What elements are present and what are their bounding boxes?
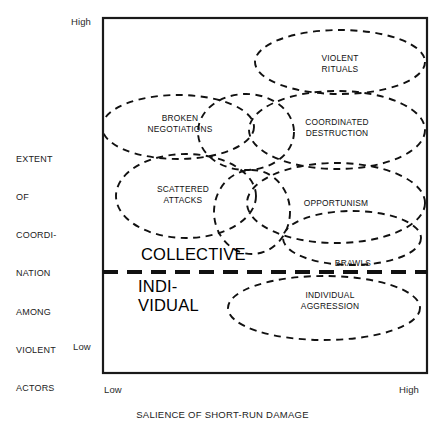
region-label-brawls: BRAWLS xyxy=(273,258,433,269)
y-axis-title-line: ACTORS xyxy=(16,382,56,395)
y-axis-low-label: Low xyxy=(73,341,91,352)
region-label-line: RITUALS xyxy=(260,64,420,75)
band-label-collective: COLLECTIVE xyxy=(141,245,246,264)
region-label-line: INDIVIDUAL xyxy=(250,290,410,301)
region-label-scattered-attacks: SCATTEREDATTACKS xyxy=(103,184,263,206)
region-label-line: VIOLENT xyxy=(260,53,420,64)
region-label-line: DESTRUCTION xyxy=(257,128,417,139)
x-axis-title: SALIENCE OF SHORT-RUN DAMAGE xyxy=(0,409,445,420)
region-label-line: OPPORTUNISM xyxy=(256,198,416,209)
region-label-coordinated-destruction: COORDINATEDDESTRUCTION xyxy=(257,117,417,139)
region-label-violent-rituals: VIOLENTRITUALS xyxy=(260,53,420,75)
region-label-line: AGGRESSION xyxy=(250,301,410,312)
region-label-line: NEGOTIATIONS xyxy=(100,124,260,135)
y-axis-title-line: OF xyxy=(16,191,56,204)
region-label-broken-negotiations: BROKENNEGOTIATIONS xyxy=(100,113,260,135)
y-axis-title-line: COORDI- xyxy=(16,229,56,242)
y-axis-title-line: NATION xyxy=(16,267,56,280)
region-label-line: BRAWLS xyxy=(273,258,433,269)
region-label-line: ATTACKS xyxy=(103,195,263,206)
region-label-line: SCATTERED xyxy=(103,184,263,195)
region-label-line: COORDINATED xyxy=(257,117,417,128)
y-axis-title-line: VIOLENT xyxy=(16,344,56,357)
x-axis-low-label: Low xyxy=(104,384,122,395)
region-label-line: BROKEN xyxy=(100,113,260,124)
y-axis-title-line: EXTENT xyxy=(16,153,56,166)
y-axis-title: EXTENT OF COORDI- NATION AMONG VIOLENT A… xyxy=(16,127,56,421)
y-axis-high-label: High xyxy=(71,16,91,27)
region-label-opportunism: OPPORTUNISM xyxy=(256,198,416,209)
violence-typology-figure: High Low EXTENT OF COORDI- NATION AMONG … xyxy=(0,0,445,431)
region-ellipse-brawls xyxy=(283,211,421,265)
region-label-individual-aggression: INDIVIDUALAGGRESSION xyxy=(250,290,410,312)
band-label-individual: INDI- VIDUAL xyxy=(138,277,199,315)
x-axis-high-label: High xyxy=(399,384,419,395)
y-axis-title-line: AMONG xyxy=(16,306,56,319)
